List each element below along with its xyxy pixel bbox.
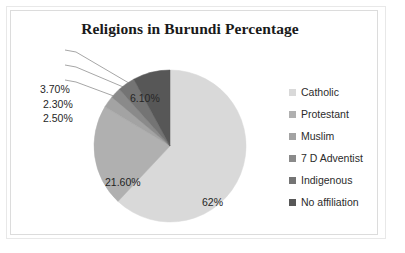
legend-swatch-icon: [289, 111, 296, 118]
legend-label: Muslim: [301, 131, 334, 142]
legend-swatch-icon: [289, 155, 296, 162]
legend-label: 7 D Adventist: [301, 153, 363, 164]
legend-item-protestant[interactable]: Protestant: [289, 104, 381, 125]
legend-item-7-d-adventist[interactable]: 7 D Adventist: [289, 148, 381, 169]
chart-legend: Catholic Protestant Muslim 7 D Adventist…: [289, 82, 381, 214]
data-label-no-affiliation: 6.10%: [130, 92, 160, 104]
pie-plot-area: 62% 21.60% 2.50% 2.30% 3.70% 6.10%: [12, 38, 282, 233]
pie-slices: [94, 70, 246, 222]
legend-label: Protestant: [301, 109, 349, 120]
legend-swatch-icon: [289, 89, 296, 96]
legend-label: Indigenous: [301, 175, 352, 186]
legend-label: Catholic: [301, 87, 339, 98]
legend-item-muslim[interactable]: Muslim: [289, 126, 381, 147]
legend-swatch-icon: [289, 177, 296, 184]
pie-chart-svg: [12, 38, 282, 233]
legend-item-no-affiliation[interactable]: No affiliation: [289, 192, 381, 213]
legend-swatch-icon: [289, 133, 296, 140]
legend-label: No affiliation: [301, 197, 359, 208]
legend-item-indigenous[interactable]: Indigenous: [289, 170, 381, 191]
data-label-catholic: 62%: [202, 196, 223, 208]
data-label-7-d-adventist: 2.30%: [43, 98, 73, 110]
legend-swatch-icon: [289, 199, 296, 206]
data-label-indigenous: 3.70%: [40, 83, 70, 95]
legend-item-catholic[interactable]: Catholic: [289, 82, 381, 103]
chart-screenshot: Religions in Burundi Percentage: [0, 0, 405, 253]
chart-title: Religions in Burundi Percentage: [40, 20, 340, 38]
data-label-protestant: 21.60%: [105, 176, 141, 188]
data-label-muslim: 2.50%: [43, 112, 73, 124]
